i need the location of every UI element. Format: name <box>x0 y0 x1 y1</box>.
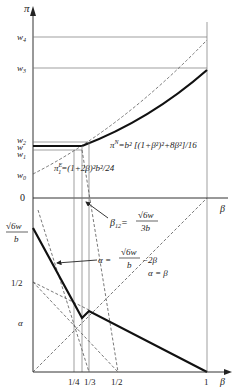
pi1E-label: πE1=(1+2β)²b²/24 <box>54 162 115 175</box>
alpha-axis-label: α <box>18 318 23 328</box>
alpha-line-arrow-icon <box>57 260 97 263</box>
w3-label: w3 <box>17 63 26 74</box>
tick-third: 1/3 <box>84 377 96 387</box>
alpha-line-den: b <box>127 260 132 270</box>
upper-beta-label: β <box>219 203 225 214</box>
alpha-line-lhs: α = <box>98 255 111 265</box>
sqrt-tick-den: b <box>14 234 19 244</box>
pi1E-curve <box>33 40 207 174</box>
beta12-den: 3b <box>140 223 151 233</box>
sqrt-tick-num: √6w <box>6 221 21 231</box>
tick-one: 1 <box>204 377 209 387</box>
piN-label: πN=b² [(1+β²)²+8β²]/16 <box>110 139 197 150</box>
pi-axis-arrow-icon <box>30 6 36 16</box>
alpha-line-tail: −2β <box>142 255 158 265</box>
alpha-eq-beta-label: α = β <box>148 268 168 278</box>
zero-label: 0 <box>20 192 25 203</box>
top-panel: π w4 w3 w2 w w1 w0 0 πN=b² [(1+β²)²+8β²]… <box>17 2 207 372</box>
diagram-canvas: π w4 w3 w2 w w1 w0 0 πN=b² [(1+β²)²+8β²]… <box>0 0 240 388</box>
bottom-panel: β12= √6w 3b √6w b 1/2 α α = √6w b −2β α … <box>6 150 232 387</box>
steep-dash <box>38 210 89 372</box>
alpha-bold-path <box>33 228 207 372</box>
lower-beta-label: β <box>219 376 225 387</box>
beta12-lhs: β12= <box>109 217 128 229</box>
alpha-line-num: √6w <box>121 247 136 257</box>
w0-label: w0 <box>17 170 26 181</box>
half-dash-2 <box>33 282 89 310</box>
tick-quarter: 1/4 <box>68 377 80 387</box>
half-tick: 1/2 <box>11 278 23 288</box>
pi-axis-label: π <box>24 2 30 14</box>
w1-label: w1 <box>17 149 26 160</box>
w4-label: w4 <box>17 32 26 43</box>
tick-half: 1/2 <box>111 377 123 387</box>
lower-beta-arrow-icon <box>224 369 232 375</box>
beta12-num: √6w <box>138 210 153 220</box>
piN-curve <box>82 70 207 146</box>
